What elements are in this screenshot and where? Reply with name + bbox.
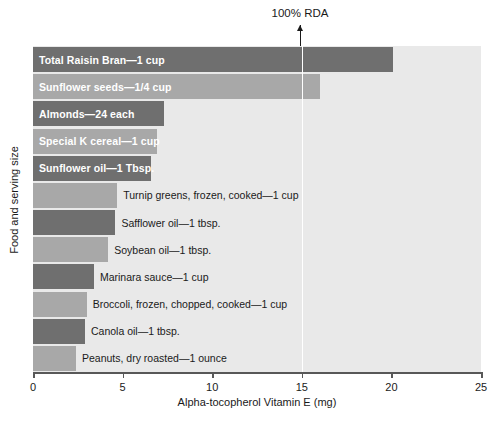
x-axis-tick [212,372,214,378]
bar-label-outside: Safflower oil—1 tbsp. [121,217,220,229]
bar[interactable] [33,264,94,289]
bar-row: Turnip greens, frozen, cooked—1 cup [33,183,481,208]
bar[interactable] [33,319,85,344]
bar-label-inside: Total Raisin Bran—1 cup [39,54,165,66]
bar-label-inside: Special K cereal—1 cup [39,135,160,147]
x-axis: 0510152025 [33,372,481,374]
x-axis-tick [391,372,393,378]
x-axis-tick-label: 25 [461,381,494,393]
bar-row: Marinara sauce—1 cup [33,264,481,289]
bar[interactable] [33,346,76,371]
x-axis-tick [33,372,35,378]
vitamin-e-bar-chart: 100% RDA Total Raisin Bran—1 cupSunflowe… [0,0,494,424]
y-axis-title: Food and serving size [8,120,20,280]
x-axis-tick-label: 15 [282,381,322,393]
bar-row: Canola oil—1 tbsp. [33,319,481,344]
bar-label-outside: Marinara sauce—1 cup [100,271,209,283]
bar-label-inside: Sunflower oil—1 Tbsp. [39,162,154,174]
bar-label-inside: Sunflower seeds—1/4 cup [39,81,171,93]
bar-row: Safflower oil—1 tbsp. [33,210,481,235]
plot-area: Total Raisin Bran—1 cupSunflower seeds—1… [33,46,481,372]
rda-arrow-icon [300,25,301,46]
bar[interactable] [33,237,108,262]
bar-row: Almonds—24 each [33,101,481,126]
bar-row: Soybean oil—1 tbsp. [33,237,481,262]
bar[interactable] [33,183,117,208]
bar-row: Sunflower oil—1 Tbsp. [33,156,481,181]
bar-row: Total Raisin Bran—1 cup [33,47,481,72]
rda-annotation-label: 100% RDA [253,7,347,20]
bar[interactable] [33,210,115,235]
bar-row: Special K cereal—1 cup [33,129,481,154]
bar-label-outside: Soybean oil—1 tbsp. [114,244,211,256]
bar-label-outside: Canola oil—1 tbsp. [91,325,180,337]
bar-label-outside: Peanuts, dry roasted—1 ounce [82,352,227,364]
x-axis-tick [123,372,125,378]
x-axis-title: Alpha-tocopherol Vitamin E (mg) [33,396,481,408]
bar-row: Broccoli, frozen, chopped, cooked—1 cup [33,292,481,317]
bar-series: Total Raisin Bran—1 cupSunflower seeds—1… [33,46,481,372]
x-axis-tick-label: 10 [192,381,232,393]
bar-label-outside: Broccoli, frozen, chopped, cooked—1 cup [93,298,287,310]
bar-row: Peanuts, dry roasted—1 ounce [33,346,481,371]
x-axis-tick [302,372,304,378]
x-axis-tick-label: 20 [371,381,411,393]
rda-reference-line [302,46,304,372]
bar[interactable] [33,292,87,317]
x-axis-tick [481,372,483,378]
x-axis-tick-label: 0 [13,381,53,393]
x-axis-tick-label: 5 [103,381,143,393]
bar-label-outside: Turnip greens, frozen, cooked—1 cup [123,189,298,201]
bar-row: Sunflower seeds—1/4 cup [33,74,481,99]
bar-label-inside: Almonds—24 each [39,108,134,120]
